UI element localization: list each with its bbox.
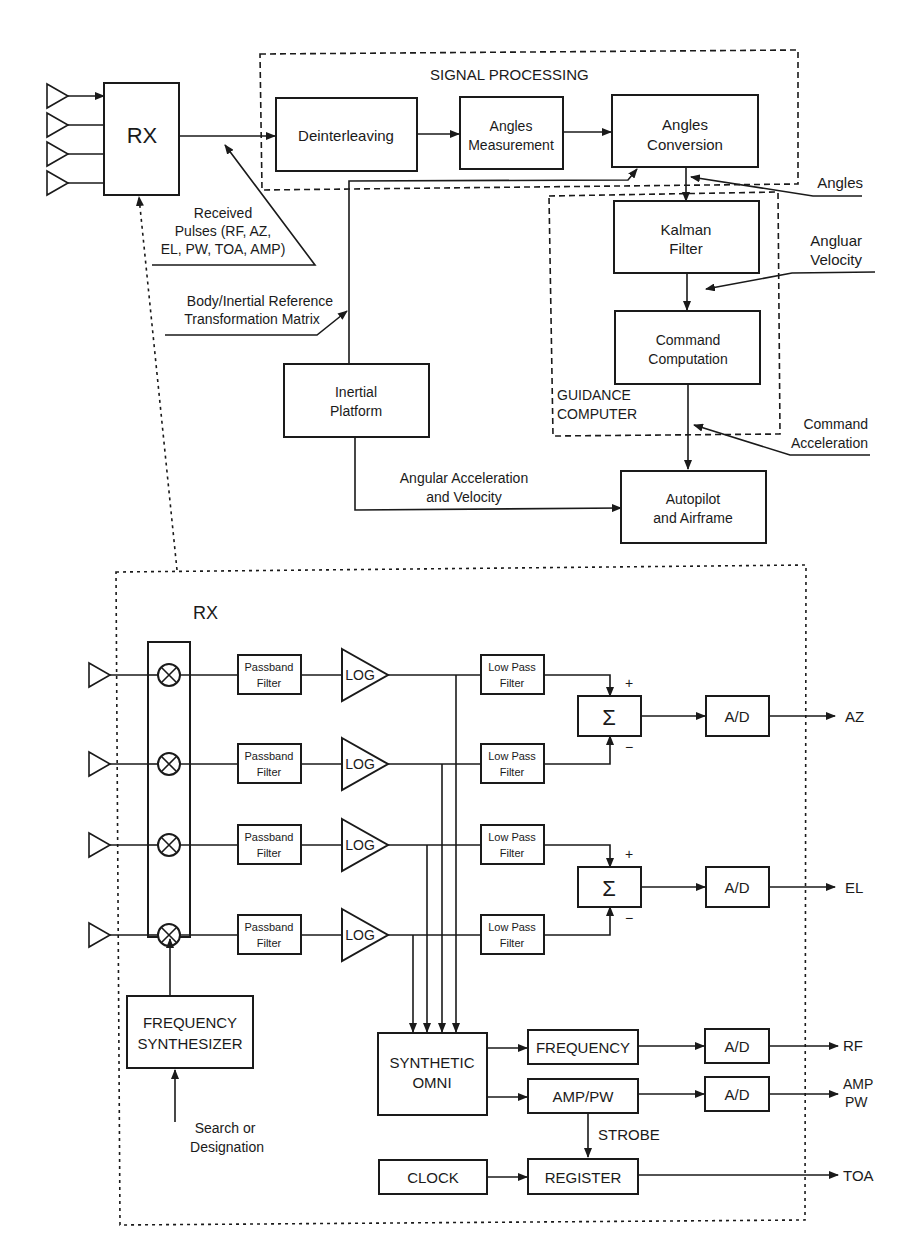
passband-label-2: Filter <box>257 847 282 859</box>
low-pass-label-2: Filter <box>500 677 525 689</box>
command-computation-label-2: Computation <box>648 351 727 367</box>
antenna-array-top <box>47 84 104 195</box>
passband-label-2: Filter <box>257 937 282 949</box>
output-toa: TOA <box>843 1167 874 1184</box>
angles-measurement-label-1: Angles <box>490 118 533 134</box>
summer-stage-az: Σ+−A/DAZ <box>544 675 864 764</box>
command-computation-label-1: Command <box>656 332 721 348</box>
log-label: LOG <box>345 667 375 683</box>
rx-detail-title: RX <box>193 603 218 623</box>
low-pass-label-1: Low Pass <box>488 921 536 933</box>
signal-processing-title: SIGNAL PROCESSING <box>430 66 589 83</box>
passband-label-2: Filter <box>257 677 282 689</box>
ad-label-amp-pw: A/D <box>724 1086 749 1103</box>
inertial-platform-block <box>284 364 429 437</box>
passband-label-1: Passband <box>245 661 294 673</box>
sigma-icon: Σ <box>602 705 616 730</box>
antenna-icon <box>89 923 110 947</box>
angles-input-label: Angles <box>817 174 863 191</box>
low-pass-label-1: Low Pass <box>488 750 536 762</box>
passband-label-1: Passband <box>245 831 294 843</box>
autopilot-label-1: Autopilot <box>666 491 721 507</box>
synthetic-omni-label-1: SYNTHETIC <box>389 1054 474 1071</box>
minus-sign: − <box>625 739 633 755</box>
output-az: AZ <box>845 708 864 725</box>
angular-velocity-input-arrow <box>706 272 875 289</box>
log-label: LOG <box>345 756 375 772</box>
search-designation-label-2: Designation <box>190 1139 264 1155</box>
output-el: EL <box>845 879 863 896</box>
angular-velocity-label-1: Angluar <box>810 232 862 249</box>
angles-conversion-label-1: Angles <box>662 116 708 133</box>
passband-label-1: Passband <box>245 750 294 762</box>
antenna-icon <box>89 663 110 687</box>
search-designation-label-1: Search or <box>195 1120 256 1136</box>
angular-velocity-label-2: Velocity <box>810 251 862 268</box>
guidance-title-1: GUIDANCE <box>557 387 631 403</box>
antenna-icon <box>47 171 68 195</box>
frequency-label: FREQUENCY <box>536 1039 630 1056</box>
ad-label-rf: A/D <box>724 1038 749 1055</box>
kalman-label-1: Kalman <box>661 221 712 238</box>
angles-conversion-label-2: Conversion <box>647 136 723 153</box>
angular-accel-label-1: Angular Acceleration <box>400 470 528 486</box>
received-pulses-line-3: EL, PW, TOA, AMP) <box>161 241 286 257</box>
output-amp: AMP <box>843 1076 873 1092</box>
plus-sign: + <box>625 846 633 862</box>
passband-label-2: Filter <box>257 766 282 778</box>
sigma-icon: Σ <box>602 876 616 901</box>
inertial-to-angles-conversion <box>349 169 637 363</box>
low-pass-label-1: Low Pass <box>488 661 536 673</box>
autopilot-airframe-block <box>621 471 766 543</box>
antenna-icon <box>47 84 68 108</box>
inertial-platform-label-2: Platform <box>330 403 382 419</box>
guidance-title-2: COMPUTER <box>557 406 637 422</box>
antenna-icon <box>89 833 110 857</box>
antenna-icon <box>47 142 68 166</box>
register-label: REGISTER <box>545 1169 622 1186</box>
summer-stage-el: Σ+−A/DEL <box>544 845 863 935</box>
frequency-synthesizer-block <box>127 996 253 1068</box>
antenna-icon <box>89 752 110 776</box>
low-pass-label-2: Filter <box>500 766 525 778</box>
body-inertial-line-1: Body/Inertial Reference <box>187 293 334 309</box>
inertial-platform-label-1: Inertial <box>335 384 377 400</box>
low-pass-label-2: Filter <box>500 937 525 949</box>
minus-sign: − <box>625 910 633 926</box>
ad-label-az: A/D <box>724 708 749 725</box>
angular-accel-label-2: and Velocity <box>426 489 502 505</box>
output-pw: PW <box>845 1094 868 1110</box>
received-pulses-line-2: Pulses (RF, AZ, <box>175 223 271 239</box>
received-pulses-line-1: Received <box>194 205 252 221</box>
system-block-diagram: RX SIGNAL PROCESSING Deinterleaving Angl… <box>0 0 918 1259</box>
deinterleaving-label: Deinterleaving <box>298 127 394 144</box>
freq-synth-label-1: FREQUENCY <box>143 1014 237 1031</box>
rx-block-label: RX <box>127 123 158 148</box>
angles-measurement-label-2: Measurement <box>468 137 554 153</box>
strobe-label: STROBE <box>598 1126 660 1143</box>
log-label: LOG <box>345 837 375 853</box>
ad-label-el: A/D <box>724 879 749 896</box>
kalman-label-2: Filter <box>669 240 702 257</box>
low-pass-label-2: Filter <box>500 847 525 859</box>
passband-label-1: Passband <box>245 921 294 933</box>
command-acceleration-label-1: Command <box>803 416 868 432</box>
antenna-icon <box>47 113 68 137</box>
body-inertial-line-2: Transformation Matrix <box>184 311 320 327</box>
command-acceleration-label-2: Acceleration <box>791 435 868 451</box>
freq-synth-label-2: SYNTHESIZER <box>137 1035 242 1052</box>
clock-label: CLOCK <box>407 1169 459 1186</box>
log-label: LOG <box>345 927 375 943</box>
synthetic-omni-label-2: OMNI <box>412 1074 451 1091</box>
low-pass-label-1: Low Pass <box>488 831 536 843</box>
autopilot-label-2: and Airframe <box>653 510 733 526</box>
output-rf: RF <box>843 1037 863 1054</box>
plus-sign: + <box>625 675 633 691</box>
amp-pw-label: AMP/PW <box>553 1088 615 1105</box>
